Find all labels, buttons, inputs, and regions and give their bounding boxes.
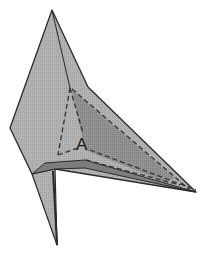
point-label-a: A (76, 135, 88, 154)
origami-diagram: A (0, 0, 209, 262)
caption-cutoff (0, 253, 209, 262)
